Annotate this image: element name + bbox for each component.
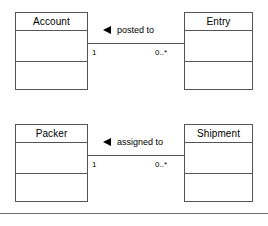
class-name-compartment-shipment: Shipment xyxy=(185,125,252,143)
class-operations-compartment-packer xyxy=(16,174,87,202)
class-box-packer[interactable]: Packer xyxy=(15,124,88,202)
class-name-entry: Entry xyxy=(207,16,231,27)
multiplicity-source-account-entry: 1 xyxy=(92,48,96,57)
class-attributes-compartment-account xyxy=(16,31,87,62)
uml-class-diagram: Account posted to 1 0..* Entry Packer as… xyxy=(0,0,268,226)
multiplicity-target-packer-shipment: 0..* xyxy=(155,160,167,169)
class-operations-compartment-shipment xyxy=(185,174,252,202)
bottom-divider xyxy=(0,213,268,214)
association-label-account-entry: posted to xyxy=(117,25,154,35)
association-line-account-entry[interactable] xyxy=(88,43,184,44)
reading-direction-triangle-icon-packer-shipment xyxy=(103,138,111,146)
class-operations-compartment-entry xyxy=(185,62,252,90)
class-name-compartment-packer: Packer xyxy=(16,125,87,143)
class-name-packer: Packer xyxy=(36,128,68,139)
class-name-compartment-entry: Entry xyxy=(185,13,252,31)
association-label-packer-shipment: assigned to xyxy=(117,137,163,147)
class-attributes-compartment-entry xyxy=(185,31,252,62)
association-line-packer-shipment[interactable] xyxy=(88,155,184,156)
class-box-account[interactable]: Account xyxy=(15,12,88,90)
class-name-account: Account xyxy=(33,16,70,27)
class-name-compartment-account: Account xyxy=(16,13,87,31)
class-operations-compartment-account xyxy=(16,62,87,90)
class-box-entry[interactable]: Entry xyxy=(184,12,253,90)
class-attributes-compartment-shipment xyxy=(185,143,252,174)
multiplicity-source-packer-shipment: 1 xyxy=(92,160,96,169)
multiplicity-target-account-entry: 0..* xyxy=(155,48,167,57)
class-attributes-compartment-packer xyxy=(16,143,87,174)
class-name-shipment: Shipment xyxy=(197,128,240,139)
class-box-shipment[interactable]: Shipment xyxy=(184,124,253,202)
reading-direction-triangle-icon-account-entry xyxy=(103,26,111,34)
